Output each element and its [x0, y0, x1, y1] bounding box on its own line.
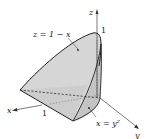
- z-axis-label: z: [88, 8, 94, 17]
- x-axis: [15, 105, 42, 110]
- x-axis-arrow-icon: [12, 108, 18, 112]
- side-surface-label: x = y²: [96, 119, 120, 128]
- leader-top-dot: [77, 49, 79, 51]
- x-axis-label: x: [7, 106, 12, 115]
- leader-side-dot: [88, 107, 90, 109]
- z-axis-arrow-icon: [96, 9, 99, 14]
- x-tick-one: 1: [42, 109, 47, 118]
- z-tick-one: 1: [101, 26, 106, 35]
- solid-diagram: z 1 x 1 y z = 1 − x x = y²: [0, 0, 150, 139]
- y-axis-label: y: [134, 131, 140, 139]
- top-surface-label: z = 1 − x: [32, 30, 71, 39]
